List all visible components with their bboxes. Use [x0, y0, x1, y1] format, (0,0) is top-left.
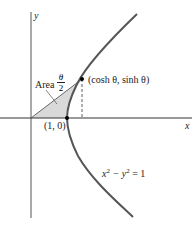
y-axis-label: y [34, 11, 38, 21]
area-fraction-den: 2 [57, 84, 65, 93]
point-label: (cosh θ, sinh θ) [88, 75, 149, 85]
x-axis-label: x [185, 121, 189, 131]
area-fraction-num: θ [57, 73, 65, 82]
vertex-label: (1, 0) [44, 121, 66, 131]
point-cosh-sinh [80, 77, 84, 81]
hyperbola-diagram [0, 0, 196, 235]
hyperbola-curve [67, 14, 137, 217]
area-label: Area [35, 80, 54, 90]
equation-label: x2 − y2 = 1 [102, 168, 145, 179]
